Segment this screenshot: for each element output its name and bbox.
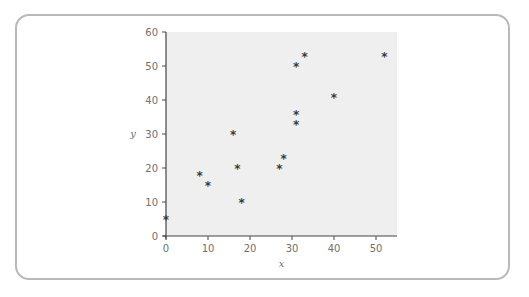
y-tick-label: 30 [145, 129, 158, 140]
data-point-marker: * [381, 50, 388, 64]
x-tick-label: 10 [202, 243, 215, 254]
data-point-marker: * [230, 128, 237, 142]
y-tick-label: 40 [145, 95, 158, 106]
y-tick-label: 0 [152, 231, 158, 242]
data-point-marker: * [163, 213, 170, 227]
data-point-marker: * [234, 162, 241, 176]
data-point-marker: * [293, 60, 300, 74]
x-axis-title: x [279, 258, 285, 269]
y-tick-label: 10 [145, 197, 158, 208]
plot-area [166, 32, 397, 236]
x-tick-label: 50 [370, 243, 383, 254]
scatter-chart: 010203040500102030405060 ************** … [0, 0, 529, 297]
x-tick-label: 40 [328, 243, 341, 254]
y-tick-label: 20 [145, 163, 158, 174]
data-point-marker: * [205, 179, 212, 193]
data-point-marker: * [196, 169, 203, 183]
data-point-marker: * [293, 108, 300, 122]
x-tick-label: 30 [286, 243, 299, 254]
y-tick-label: 50 [145, 61, 158, 72]
data-point-marker: * [280, 152, 287, 166]
x-tick-label: 0 [163, 243, 169, 254]
x-tick-label: 20 [244, 243, 257, 254]
data-point-marker: * [238, 196, 245, 210]
y-tick-label: 60 [145, 27, 158, 38]
y-axis-title: y [129, 128, 136, 139]
data-point-marker: * [301, 50, 308, 64]
data-point-marker: * [331, 91, 338, 105]
